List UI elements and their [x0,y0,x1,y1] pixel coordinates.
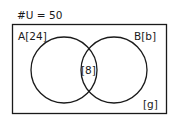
venn-diagram: #U = 50 A[24] B[b] [8] [g] [0,0,172,119]
outside-label: [g] [143,98,158,110]
intersection-label: [8] [81,64,96,76]
universe-label: #U = 50 [17,9,62,21]
set-a-label: A[24] [18,30,47,42]
set-b-label: B[b] [134,30,156,42]
